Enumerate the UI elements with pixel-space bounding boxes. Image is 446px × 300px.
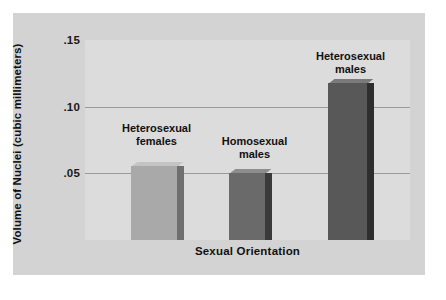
y-axis-label: Volume of Nuclei (cubic millimeters)	[7, 13, 27, 275]
plot-area: .15 .10 .05 Heterosexual females Homosex…	[85, 40, 410, 240]
bar-heterosexual-females[interactable]	[131, 166, 177, 240]
y-tick-label-010: .10	[63, 101, 80, 113]
bar-homosexual-males[interactable]	[229, 173, 265, 240]
y-tick-label-005: .05	[63, 167, 80, 179]
bar-side-face	[265, 173, 272, 240]
bar-front-face	[131, 166, 177, 240]
bar-label-line2: males	[293, 63, 408, 76]
x-axis-label: Sexual Orientation	[85, 245, 410, 257]
bar-label-line1: Heterosexual	[293, 50, 408, 63]
y-tick-label-015: .15	[63, 34, 80, 46]
bar-side-face	[367, 83, 374, 240]
bar-front-face	[229, 173, 265, 240]
figure-container: Volume of Nuclei (cubic millimeters) .15…	[0, 0, 446, 300]
bar-label-heterosexual-males: Heterosexual males	[293, 50, 408, 75]
bar-label-homosexual-males: Homosexual males	[197, 135, 312, 160]
bar-front-face	[328, 83, 367, 240]
gridline-015: .15	[85, 40, 410, 41]
bar-label-line1: Heterosexual	[99, 122, 214, 135]
chart-canvas: Volume of Nuclei (cubic millimeters) .15…	[13, 13, 425, 275]
bar-label-line1: Homosexual	[197, 135, 312, 148]
bar-side-face	[177, 166, 184, 240]
bar-label-line2: males	[197, 148, 312, 161]
bar-heterosexual-males[interactable]	[328, 83, 367, 240]
